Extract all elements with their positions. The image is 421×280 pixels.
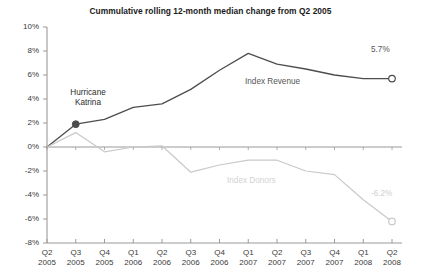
plot-area bbox=[0, 0, 421, 280]
end-value-label-index-donors: -6.2% bbox=[371, 189, 392, 198]
y-axis-tick-label: -2% bbox=[9, 167, 39, 175]
y-axis-tick-label: 0% bbox=[9, 143, 39, 151]
end-marker-index-donors bbox=[389, 218, 396, 225]
series-label-index-revenue: Index Revenue bbox=[245, 77, 300, 86]
markers-group bbox=[72, 75, 395, 224]
annotation-line-1: Hurricane bbox=[57, 88, 119, 98]
y-axis-tick-label: 4% bbox=[9, 95, 39, 103]
axes-group bbox=[43, 27, 402, 243]
series-group bbox=[47, 53, 392, 221]
y-axis-tick-label: 10% bbox=[9, 23, 39, 31]
y-axis-tick-label: 6% bbox=[9, 71, 39, 79]
y-axis-tick-label: 2% bbox=[9, 119, 39, 127]
y-axis-tick-label: 8% bbox=[9, 47, 39, 55]
annotation-hurricane-katrina: Hurricane Katrina bbox=[57, 88, 119, 108]
y-axis-tick-label: -4% bbox=[9, 191, 39, 199]
x-axis-tick-label: Q22008 bbox=[375, 248, 409, 267]
annotation-line-2: Katrina bbox=[57, 98, 119, 108]
chart-svg bbox=[0, 0, 421, 280]
annotation-marker-hurricane-katrina bbox=[72, 121, 79, 128]
chart-container: Cummulative rolling 12-month median chan… bbox=[0, 0, 421, 280]
y-axis-tick-label: -6% bbox=[9, 215, 39, 223]
series-label-index-donors: Index Donors bbox=[227, 176, 276, 185]
y-axis-tick-label: -8% bbox=[9, 239, 39, 247]
end-marker-index-revenue bbox=[389, 75, 396, 82]
x-tick-year: 2008 bbox=[375, 258, 409, 268]
x-tick-quarter: Q2 bbox=[375, 248, 409, 258]
series-line-index-donors bbox=[47, 133, 392, 222]
end-value-label-index-revenue: 5.7% bbox=[371, 45, 390, 54]
